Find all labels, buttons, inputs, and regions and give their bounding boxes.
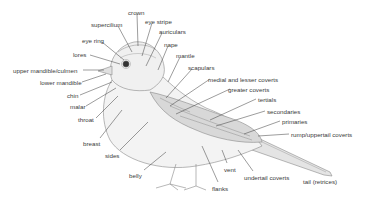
label-medial-lesser-coverts: medial and lesser coverts	[208, 76, 278, 83]
label-lores: lores	[73, 51, 86, 58]
label-sides: sides	[105, 152, 119, 159]
label-mantle: mantle	[176, 52, 195, 59]
label-rump-uppertail-coverts: rump/uppertail coverts	[291, 131, 352, 138]
label-secondaries: secondaries	[267, 108, 300, 115]
label-eye-ring: eye ring	[82, 37, 104, 44]
label-chin: chin	[67, 92, 78, 99]
label-upper-mandible-culmen: upper mandible/culmen	[13, 67, 77, 74]
label-eye-stripe: eye stripe	[145, 18, 172, 25]
label-malar: malar	[70, 103, 85, 110]
label-nape: nape	[164, 41, 178, 48]
label-lower-mandible: lower mandible	[40, 79, 82, 86]
label-throat: throat	[78, 116, 94, 123]
label-undertail-coverts: undertail coverts	[244, 174, 289, 181]
label-breast: breast	[83, 140, 100, 147]
label-primaries: primaries	[282, 118, 307, 125]
label-belly: belly	[129, 172, 142, 179]
label-scapulars: scapulars	[188, 64, 214, 71]
label-auriculars: auriculars	[159, 28, 186, 35]
label-tertials: tertials	[258, 96, 276, 103]
bird-topography-diagram: crown supercilium eye stripe auriculars …	[0, 0, 372, 202]
label-supercilium: supercilium	[91, 21, 122, 28]
label-greater-coverts: greater coverts	[228, 86, 269, 93]
label-flanks: flanks	[212, 185, 228, 192]
bird-illustration	[0, 0, 372, 202]
label-vent: vent	[224, 166, 236, 173]
label-tail-retrices: tail (retrices)	[303, 178, 337, 185]
label-crown: crown	[128, 9, 145, 16]
